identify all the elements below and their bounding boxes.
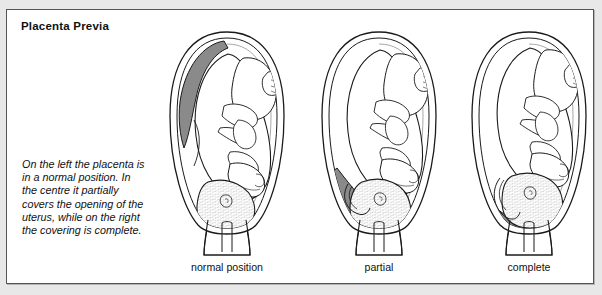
uterus-diagram-normal [152, 24, 302, 259]
panel-normal-position: normal position [152, 24, 302, 282]
panel-label-complete: complete [454, 261, 602, 273]
panel-label-normal-position: normal position [152, 261, 302, 273]
panel-label-partial: partial [304, 261, 454, 273]
figure-frame: Placenta Previa On the left the placenta… [6, 9, 594, 284]
panel-complete: complete [454, 24, 602, 282]
illustration-panels: normal position [7, 10, 595, 283]
uterus-diagram-complete [454, 24, 602, 259]
uterus-diagram-partial [304, 24, 454, 259]
placenta-previa-figure: Placenta Previa On the left the placenta… [0, 0, 602, 295]
panel-partial: partial [304, 24, 454, 282]
